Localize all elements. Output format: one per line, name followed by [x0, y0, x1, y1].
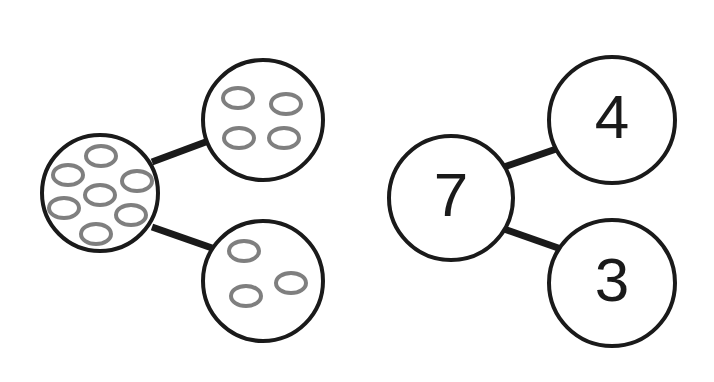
counter-dot — [116, 205, 146, 225]
numeral-whole-value: 7 — [434, 160, 468, 229]
counter-dot — [229, 241, 259, 261]
connector-whole-to-part-top — [152, 140, 211, 162]
numeral-number-bond-group: 7 4 3 — [389, 57, 675, 346]
counter-dot — [85, 185, 115, 205]
counter-dot — [81, 224, 111, 244]
part-counter-circle-bottom[interactable] — [203, 221, 323, 341]
part-counter-circle-top[interactable] — [203, 60, 323, 180]
counter-dot — [86, 146, 116, 166]
counter-dot — [122, 171, 152, 191]
counter-dot — [49, 198, 79, 218]
counter-dot — [276, 273, 306, 293]
number-bond-canvas: 7 4 3 — [0, 0, 714, 382]
numeral-part-top-value: 4 — [595, 82, 629, 151]
counter-dot — [223, 88, 253, 108]
counter-dot — [231, 286, 261, 306]
whole-numeral-circle[interactable]: 7 — [389, 136, 513, 260]
counter-dot — [271, 94, 301, 114]
part-top-circle-outline — [203, 60, 323, 180]
counter-dot — [269, 128, 299, 148]
counter-dot — [53, 165, 83, 185]
numeral-part-bottom-value: 3 — [595, 245, 629, 314]
connector-seven-to-three — [504, 229, 561, 249]
connector-whole-to-part-bottom — [152, 227, 212, 248]
connector-seven-to-four — [504, 147, 562, 167]
counter-dot — [224, 128, 254, 148]
number-bond-figure: 7 4 3 — [0, 0, 714, 382]
part-numeral-circle-bottom[interactable]: 3 — [549, 220, 675, 346]
counter-number-bond-group — [42, 60, 323, 341]
part-numeral-circle-top[interactable]: 4 — [549, 57, 675, 183]
whole-counter-circle[interactable] — [42, 135, 158, 251]
